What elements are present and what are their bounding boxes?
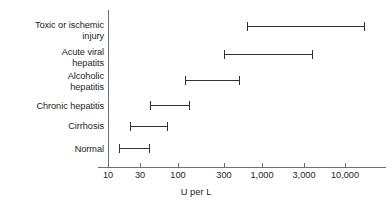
x-tick-label-300: 300 [216, 170, 231, 180]
category-label-acute-viral-hepatitis: Acute viral hepatits [62, 47, 104, 68]
range-cap-low [150, 101, 151, 110]
range-cap-high [189, 101, 190, 110]
category-label-alcoholic-hepatitis: Alcoholic hepatitis [68, 71, 104, 92]
x-tick-300 [224, 163, 225, 168]
range-bar-cirrhosis [130, 126, 168, 127]
x-tick-label-1000: 1,000 [251, 170, 274, 180]
range-cap-high [364, 22, 365, 31]
range-cap-low [224, 50, 225, 59]
range-bar-alcoholic-hepatitis [185, 80, 240, 81]
x-tick-label-10: 10 [103, 170, 113, 180]
range-bar-toxic-or-ischemic-injury [247, 26, 365, 27]
range-cap-high [167, 122, 168, 131]
range-cap-low [247, 22, 248, 31]
x-tick-label-100: 100 [170, 170, 185, 180]
range-bar-chronic-hepatitis [150, 105, 190, 106]
x-tick-100 [178, 163, 179, 168]
category-label-toxic-or-ischemic-injury: Toxic or ischemic injury [35, 20, 104, 41]
range-cap-high [149, 144, 150, 153]
range-bar-normal [119, 148, 150, 149]
range-cap-high [239, 76, 240, 85]
x-tick-30 [140, 163, 141, 168]
y-axis-line [108, 10, 109, 167]
category-label-normal: Normal [75, 144, 104, 155]
x-tick-3000 [304, 163, 305, 168]
range-cap-low [185, 76, 186, 85]
x-tick-label-3000: 3,000 [293, 170, 316, 180]
x-tick-label-30: 30 [135, 170, 145, 180]
range-bar-acute-viral-hepatitis [224, 54, 313, 55]
range-chart: Toxic or ischemic injury Acute viral hep… [0, 0, 392, 209]
category-label-chronic-hepatitis: Chronic hepatitis [36, 101, 104, 112]
category-label-cirrhosis: Cirrhosis [68, 121, 104, 132]
x-tick-label-10000: 10,000 [331, 170, 359, 180]
range-cap-low [130, 122, 131, 131]
range-cap-high [312, 50, 313, 59]
x-tick-10 [108, 163, 109, 168]
x-tick-10000 [345, 163, 346, 168]
x-axis-title: U per L [0, 186, 392, 197]
x-axis-line [98, 167, 386, 168]
range-cap-low [119, 144, 120, 153]
x-tick-1000 [262, 163, 263, 168]
